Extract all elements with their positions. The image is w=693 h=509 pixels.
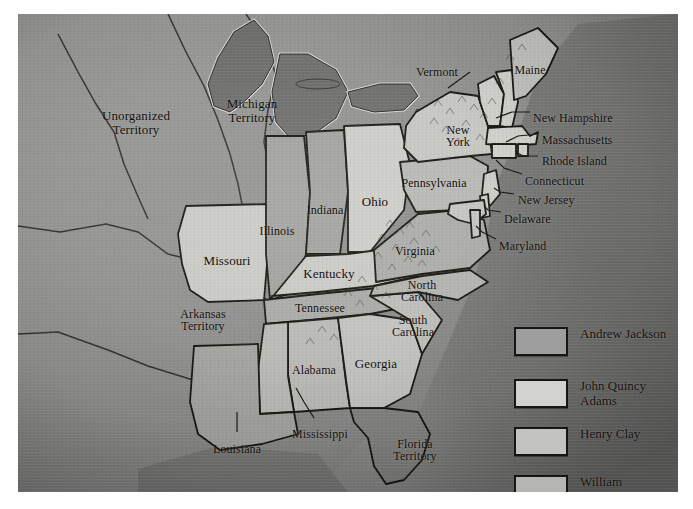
map-label-maine: Maine — [514, 64, 545, 76]
map-label-pennsylvania: Pennsylvania — [401, 177, 466, 189]
map-label-massachusetts: Massachusetts — [542, 134, 613, 146]
map-label-maryland: Maryland — [499, 240, 546, 252]
map-label-virginia: Virginia — [395, 245, 435, 257]
map-plate: Unorganized TerritoryMichigan TerritoryM… — [18, 14, 678, 492]
map-label-north-carolina: North Carolina — [401, 279, 443, 304]
map-label-mississippi: Mississippi — [292, 428, 348, 440]
election-map-page: Unorganized TerritoryMichigan TerritoryM… — [0, 0, 693, 509]
map-label-indiana: Indiana — [307, 204, 344, 216]
map-label-michigan-territory: Michigan Territory — [227, 97, 278, 124]
map-label-illinois: Illinois — [260, 225, 295, 237]
map-label-kentucky: Kentucky — [303, 267, 354, 281]
map-label-connecticut: Connecticut — [525, 175, 584, 187]
map-label-new-hampshire: New Hampshire — [533, 112, 613, 124]
legend-henry-clay-label: Henry Clay — [580, 427, 640, 442]
map-label-georgia: Georgia — [355, 357, 397, 371]
map-legend: Andrew JacksonJohn Quincy AdamsHenry Cla… — [514, 327, 678, 492]
legend-william-crawford-swatch — [514, 475, 568, 492]
legend-andrew-jackson-swatch — [514, 327, 568, 356]
map-label-vermont: Vermont — [416, 66, 458, 78]
legend-william-crawford: William Crawford — [514, 475, 630, 492]
map-label-rhode-island: Rhode Island — [542, 155, 607, 167]
map-label-arkansas-territory: Arkansas Territory — [180, 308, 225, 333]
map-label-missouri: Missouri — [203, 254, 250, 268]
legend-andrew-jackson: Andrew Jackson — [514, 327, 666, 356]
legend-henry-clay-swatch — [514, 427, 568, 456]
legend-william-crawford-label: William Crawford — [580, 475, 630, 492]
map-label-new-jersey: New Jersey — [518, 194, 575, 206]
map-label-new-york: New York — [446, 124, 470, 149]
map-label-tennessee: Tennessee — [295, 302, 345, 314]
map-label-south-carolina: South Carolina — [392, 314, 434, 339]
legend-henry-clay: Henry Clay — [514, 427, 640, 456]
map-label-alabama: Alabama — [292, 364, 336, 376]
legend-john-quincy-adams-label: John Quincy Adams — [580, 379, 646, 408]
legend-andrew-jackson-label: Andrew Jackson — [580, 327, 666, 342]
legend-john-quincy-adams-swatch — [514, 379, 568, 408]
map-label-delaware: Delaware — [504, 213, 551, 225]
map-label-unorganized-territory: Unorganized Territory — [102, 109, 170, 136]
map-label-florida-territory: Florida Territory — [393, 438, 436, 463]
map-label-ohio: Ohio — [362, 195, 388, 209]
legend-john-quincy-adams: John Quincy Adams — [514, 379, 646, 408]
map-label-louisiana: Louisiana — [213, 443, 261, 455]
